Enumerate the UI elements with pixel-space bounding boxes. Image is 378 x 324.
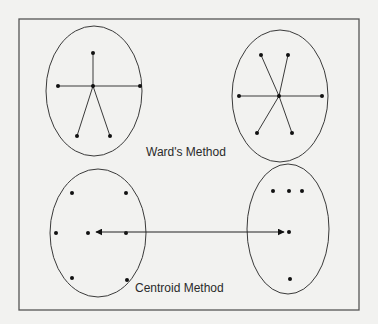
distance-line bbox=[93, 86, 110, 136]
cluster-diagram bbox=[0, 0, 378, 324]
centroid-right-cluster bbox=[247, 164, 329, 294]
data-point bbox=[320, 94, 324, 98]
diagram-canvas: Ward's Method Centroid Method bbox=[0, 0, 378, 324]
cluster-center-point bbox=[91, 84, 95, 88]
data-point bbox=[287, 230, 291, 234]
data-point bbox=[125, 278, 129, 282]
cluster-ellipse bbox=[46, 26, 142, 156]
frame-border bbox=[19, 19, 359, 310]
data-point bbox=[54, 231, 58, 235]
ward-method-label: Ward's Method bbox=[146, 145, 226, 159]
ward-left-cluster bbox=[46, 26, 142, 156]
data-point bbox=[75, 134, 79, 138]
data-point bbox=[286, 53, 290, 57]
cluster-center-point bbox=[277, 94, 281, 98]
data-point bbox=[290, 131, 294, 135]
data-point bbox=[91, 51, 95, 55]
data-point bbox=[255, 131, 259, 135]
distance-line bbox=[279, 55, 288, 96]
data-point bbox=[70, 191, 74, 195]
ward-right-cluster bbox=[232, 30, 328, 162]
data-point bbox=[271, 189, 275, 193]
data-point bbox=[287, 189, 291, 193]
centroid-left-cluster bbox=[50, 169, 146, 297]
data-point bbox=[138, 84, 142, 88]
data-point bbox=[70, 276, 74, 280]
data-point bbox=[288, 277, 292, 281]
cluster-ellipse bbox=[50, 169, 146, 297]
data-point bbox=[124, 191, 128, 195]
data-point bbox=[86, 231, 90, 235]
cluster-ellipse bbox=[247, 164, 329, 294]
data-point bbox=[56, 84, 60, 88]
data-point bbox=[237, 94, 241, 98]
centroid-method-label: Centroid Method bbox=[135, 281, 224, 295]
distance-line bbox=[77, 86, 93, 136]
data-point bbox=[259, 53, 263, 57]
data-point bbox=[108, 134, 112, 138]
distance-line bbox=[257, 96, 279, 133]
distance-line bbox=[261, 55, 279, 96]
data-point bbox=[300, 189, 304, 193]
distance-line bbox=[279, 96, 292, 133]
